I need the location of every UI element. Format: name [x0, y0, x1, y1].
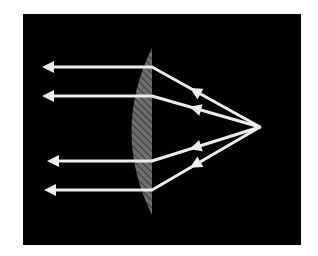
arrowhead-left-icon	[47, 155, 59, 167]
arrowhead-left-icon	[42, 61, 54, 73]
arrowhead-mid-icon	[187, 157, 203, 173]
arrowhead-mid-icon	[188, 140, 203, 155]
point-source	[259, 126, 262, 129]
lens-ray-diagram	[0, 0, 318, 256]
arrowhead-mid-icon	[187, 83, 203, 99]
arrowhead-left-icon	[44, 184, 56, 196]
arrowhead-left-icon	[42, 90, 54, 102]
